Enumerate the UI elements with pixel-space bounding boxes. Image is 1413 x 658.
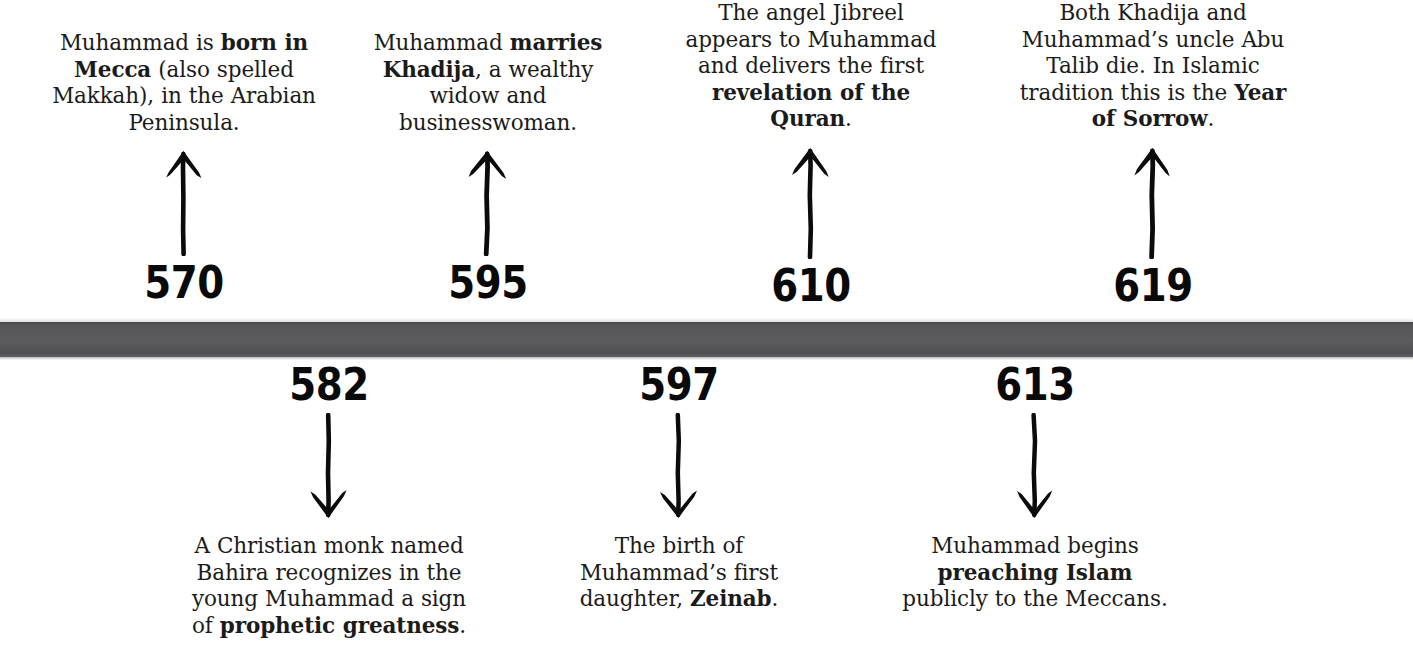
- year-label-570: 570: [64, 260, 305, 305]
- event-description-619: Both Khadija and Muhammad’s uncle Abu Ta…: [1010, 0, 1296, 133]
- event-description-613: Muhammad begins preaching Islam publicly…: [900, 533, 1170, 613]
- year-label-595: 595: [371, 260, 605, 305]
- event-description-582: A Christian monk named Bahira recognizes…: [184, 533, 474, 639]
- arrow-up-icon: [44, 146, 324, 256]
- year-label-597: 597: [583, 362, 776, 407]
- arrow-up-icon: [1010, 143, 1296, 259]
- timeline-event-582: 582 A Christian monk named Bahira recogn…: [184, 362, 474, 639]
- year-label-582: 582: [204, 362, 453, 407]
- event-description-597: The birth of Muhammad’s first daughter, …: [567, 533, 791, 613]
- event-description-595: Muhammad marries Khadija, a wealthy wido…: [352, 30, 624, 136]
- timeline-infographic: Muhammad is born in Mecca (also spelled …: [0, 0, 1413, 658]
- event-description-610: The angel Jibreel appears to Muhammad an…: [672, 0, 950, 133]
- timeline-event-570: Muhammad is born in Mecca (also spelled …: [44, 30, 324, 305]
- year-label-613: 613: [919, 362, 1151, 407]
- event-description-570: Muhammad is born in Mecca (also spelled …: [44, 30, 324, 136]
- timeline-bar: [0, 322, 1413, 357]
- arrow-up-icon: [352, 146, 624, 256]
- arrow-down-icon: [567, 413, 791, 523]
- arrow-down-icon: [900, 413, 1170, 523]
- year-label-619: 619: [1030, 263, 1276, 308]
- year-label-610: 610: [691, 263, 930, 308]
- arrow-down-icon: [184, 413, 474, 523]
- timeline-event-619: Both Khadija and Muhammad’s uncle Abu Ta…: [1010, 0, 1296, 308]
- timeline-event-597: 597 The birth of Muhammad’s first daught…: [567, 362, 791, 613]
- arrow-up-icon: [672, 143, 950, 259]
- timeline-event-610: The angel Jibreel appears to Muhammad an…: [672, 0, 950, 308]
- timeline-event-595: Muhammad marries Khadija, a wealthy wido…: [352, 30, 624, 305]
- timeline-event-613: 613 Muhammad begins preaching Islam publ…: [900, 362, 1170, 613]
